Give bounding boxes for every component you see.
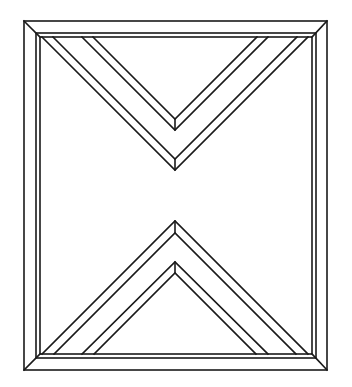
framed-chevron-drawing bbox=[0, 0, 352, 387]
inner-frame-outer-line bbox=[36, 33, 316, 358]
outer-frame bbox=[24, 21, 327, 370]
top-chevron-outer-band bbox=[42, 37, 308, 170]
bottom-chevron-inner-band bbox=[82, 262, 268, 354]
bottom-chevron-outer-band bbox=[42, 221, 308, 354]
inner-frame-inner-line bbox=[40, 37, 312, 354]
corner-miters bbox=[24, 21, 327, 370]
top-chevron-inner-band bbox=[82, 37, 268, 130]
